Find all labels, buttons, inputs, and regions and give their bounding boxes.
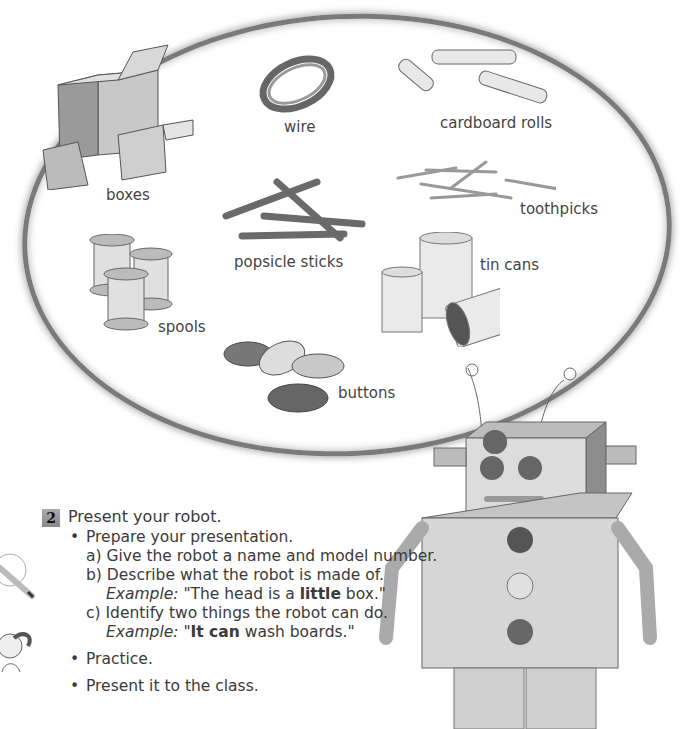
activity-title: Present your robot. [68,507,222,526]
boxes-label: boxes [106,186,150,204]
boxes-illustration [38,40,198,190]
wire-illustration [252,44,342,119]
bullet-practice: Practice. [86,650,153,668]
robot-illustration [372,358,668,729]
subitem-b: b) Describe what the robot is made of. [86,566,384,584]
wire-label: wire [284,118,316,136]
toothpicks-illustration [396,158,556,203]
toothpicks-label: toothpicks [520,200,598,218]
cardboard-rolls-illustration [396,46,556,111]
cardboard-rolls-label: cardboard rolls [440,114,552,132]
buttons-illustration [222,336,372,416]
example-b: Example: "The head is a little box." [106,585,386,603]
girl-thinking-icon [0,620,36,672]
popsicle-sticks-illustration [222,176,367,246]
example-c: Example: "It can wash boards." [106,623,355,641]
pencil-icon [0,548,36,600]
bullet-present: Present it to the class. [86,677,259,695]
tin-cans-illustration [380,232,500,347]
subitem-c: c) Identify two things the robot can do. [86,604,388,622]
bullet-prepare: Prepare your presentation. [86,528,293,546]
spools-label: spools [158,318,206,336]
subitem-a: a) Give the robot a name and model numbe… [86,547,437,565]
popsicle-sticks-label: popsicle sticks [234,253,343,271]
activity-number-badge: 2 [42,509,60,527]
tin-cans-label: tin cans [480,256,539,274]
